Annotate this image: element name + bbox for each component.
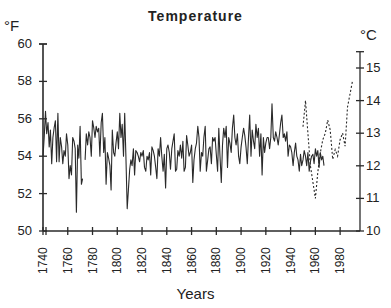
plot-area — [0, 0, 391, 308]
celsius-series-dashed-line — [303, 81, 353, 198]
fahrenheit-series-line — [43, 104, 324, 213]
